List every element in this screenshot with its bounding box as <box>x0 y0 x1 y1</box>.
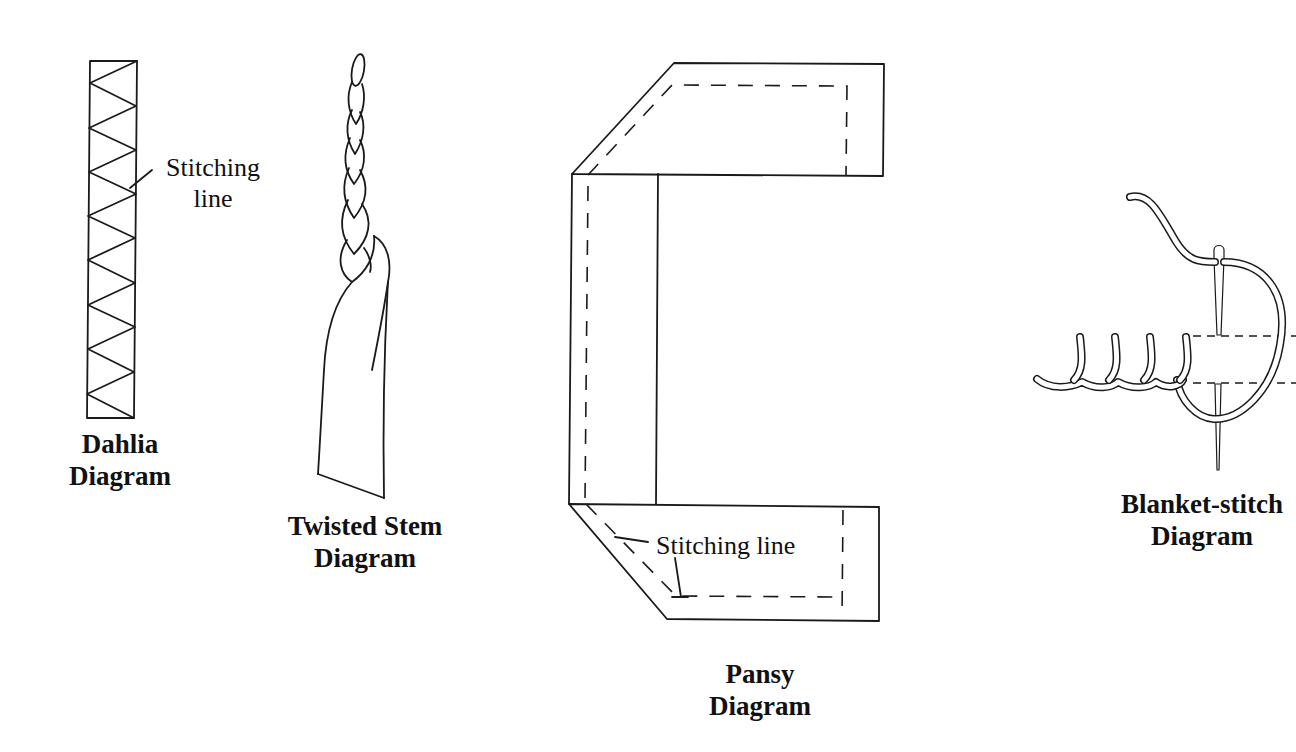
blanket-stitch-diagram-title: Blanket-stitch Diagram <box>1100 488 1296 552</box>
dahlia-title-line1: Dahlia <box>40 428 200 460</box>
illustrations <box>0 0 1296 752</box>
blanket-stitch-title-line1: Blanket-stitch <box>1100 488 1296 520</box>
dahlia-strip-drawing <box>87 61 152 418</box>
twisted-stem-drawing <box>318 53 389 498</box>
twisted-stem-title-line2: Diagram <box>255 542 475 574</box>
dahlia-title-line2: Diagram <box>40 460 200 492</box>
blanket-stitch-drawing <box>1037 196 1296 470</box>
dahlia-stitching-line-label: Stitching line <box>155 152 271 214</box>
pansy-annotation: Stitching line <box>656 531 795 560</box>
diagram-canvas: Stitching line Dahlia Diagram Twisted St… <box>0 0 1296 752</box>
pansy-title-line2: Diagram <box>680 690 840 722</box>
dahlia-annotation-line1: Stitching <box>155 152 271 183</box>
twisted-stem-diagram-title: Twisted Stem Diagram <box>255 510 475 574</box>
dahlia-diagram-title: Dahlia Diagram <box>40 428 200 492</box>
twisted-stem-title-line1: Twisted Stem <box>255 510 475 542</box>
dahlia-annotation-line2: line <box>155 183 271 214</box>
blanket-stitch-title-line2: Diagram <box>1100 520 1296 552</box>
pansy-stitching-line-label: Stitching line <box>656 530 795 561</box>
pansy-title-line1: Pansy <box>680 658 840 690</box>
pansy-diagram-title: Pansy Diagram <box>680 658 840 722</box>
